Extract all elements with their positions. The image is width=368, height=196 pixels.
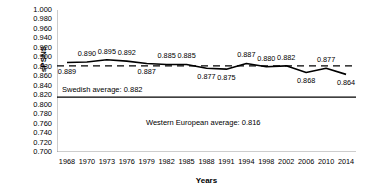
line-chart: sPSNS 1.0000.9800.9600.9400.9200.9000.88… <box>0 0 368 196</box>
data-point-label: 0.877 <box>317 56 335 64</box>
data-point-label: 0.895 <box>98 48 116 56</box>
x-axis-tick-label: 1976 <box>119 157 135 166</box>
x-axis-tick-labels: 1968197019731976197919821985198819911994… <box>57 157 356 169</box>
x-axis-tick-label: 1994 <box>238 157 254 166</box>
x-axis-tick-label: 1973 <box>99 157 115 166</box>
y-axis-tick-label: 0.800 <box>18 101 52 109</box>
y-axis-tick-label: 0.880 <box>18 63 52 71</box>
x-axis-tick-label: 1968 <box>59 157 75 166</box>
y-axis-tick-label: 0.940 <box>18 34 52 42</box>
y-axis-tick-label: 0.960 <box>18 25 52 33</box>
x-axis-tick-label: 2010 <box>318 157 334 166</box>
data-point-label: 0.868 <box>297 77 315 85</box>
y-axis-tick-label: 0.820 <box>18 91 52 99</box>
x-axis-tick-label: 1982 <box>159 157 175 166</box>
x-axis-tick-label: 1991 <box>218 157 234 166</box>
data-point-label: 0.882 <box>277 54 295 62</box>
y-axis-tick-label: 0.920 <box>18 44 52 52</box>
y-axis-tick-labels: 1.0000.9800.9600.9400.9200.9000.8800.860… <box>18 0 52 196</box>
y-axis-tick-label: 0.760 <box>18 120 52 128</box>
y-axis-tick-label: 0.900 <box>18 53 52 61</box>
data-point-label: 0.890 <box>78 50 96 58</box>
x-axis-tick-label: 1979 <box>139 157 155 166</box>
plot-area: 0.8890.8900.8950.8920.8870.8850.8850.877… <box>57 10 356 152</box>
y-axis-tick-label: 0.840 <box>18 82 52 90</box>
data-point-label: 0.875 <box>217 74 235 82</box>
y-axis-tick-label: 0.700 <box>18 148 52 156</box>
x-axis-tick-label: 2002 <box>278 157 294 166</box>
y-axis-tick-label: 0.780 <box>18 110 52 118</box>
x-axis-tick-label: 1970 <box>79 157 95 166</box>
data-point-label: 0.880 <box>257 55 275 63</box>
data-point-label: 0.892 <box>118 49 136 57</box>
x-axis-title: Years <box>57 176 356 185</box>
swedish-average-annotation: Swedish average: 0.882 <box>62 85 142 94</box>
y-axis-tick-label: 0.860 <box>18 72 52 80</box>
x-axis-tick-label: 2014 <box>338 157 354 166</box>
data-point-label: 0.864 <box>337 79 355 87</box>
data-point-label: 0.885 <box>177 52 195 60</box>
data-point-label: 0.885 <box>157 52 175 60</box>
x-axis-tick-label: 1998 <box>258 157 274 166</box>
y-axis-tick-label: 1.000 <box>18 6 52 14</box>
x-axis-tick-label: 1985 <box>178 157 194 166</box>
data-point-label: 0.889 <box>58 68 76 76</box>
x-axis-tick-label: 2006 <box>298 157 314 166</box>
y-axis-tick-label: 0.720 <box>18 139 52 147</box>
data-point-label: 0.877 <box>197 73 215 81</box>
data-point-label: 0.887 <box>237 51 255 59</box>
western-european-average-annotation: Western European average: 0.816 <box>146 118 261 127</box>
y-axis-tick-label: 0.740 <box>18 129 52 137</box>
x-axis-tick-label: 1988 <box>198 157 214 166</box>
data-point-label: 0.887 <box>138 68 156 76</box>
y-axis-tick-label: 0.980 <box>18 15 52 23</box>
